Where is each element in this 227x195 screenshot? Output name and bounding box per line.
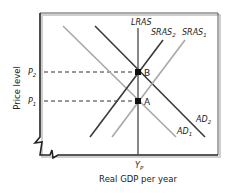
x-axis-title: Real GDP per year [99, 174, 177, 184]
sras2-label: SRAS2 [151, 28, 176, 38]
point-b-marker [135, 69, 141, 75]
point-b-label: B [144, 68, 150, 78]
ad2-label: AD2 [195, 115, 212, 125]
p1-tick-label: P1 [28, 97, 36, 107]
yp-tick-label: YP [135, 161, 144, 171]
p2-tick-label: P2 [28, 68, 37, 78]
sras1-label: SRAS1 [182, 28, 207, 38]
lras-label: LRAS [131, 18, 152, 27]
as-ad-diagram: B A LRAS SRAS2 SRAS1 AD2 AD1 P2 P1 YP Re… [0, 0, 227, 195]
point-a-label: A [144, 97, 151, 107]
point-a-marker [135, 98, 141, 104]
ad1-curve [63, 26, 176, 137]
y-axis-title: Price level [12, 66, 22, 110]
ad2-curve [95, 26, 205, 137]
sras2-curve [90, 40, 163, 137]
ad1-label: AD1 [176, 127, 192, 137]
